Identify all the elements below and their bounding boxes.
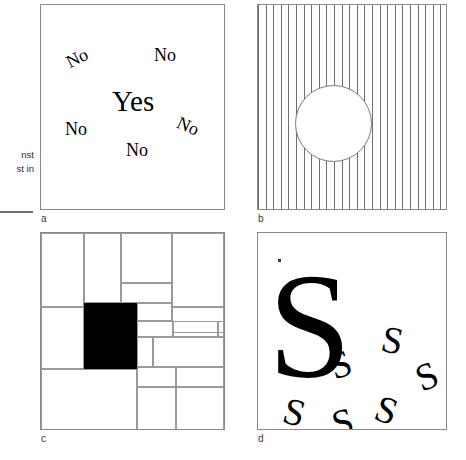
outline-rectangle [137, 321, 173, 337]
panel-c-rectangle-partition [40, 232, 225, 430]
outline-rectangle [176, 367, 224, 387]
distractor-word-no: No [126, 141, 148, 159]
outline-rectangle [121, 233, 172, 283]
panel-b-stripes-with-circle [257, 4, 447, 210]
small-letter-s: S [410, 354, 444, 397]
panel-d-letter-popout: SSSSSSS [257, 232, 447, 430]
occluding-circle [295, 85, 372, 162]
outline-rectangle [153, 337, 224, 367]
outline-rectangle [218, 321, 224, 337]
outline-rectangle [41, 369, 137, 430]
outline-rectangle [41, 307, 84, 369]
small-letter-s: S [328, 401, 358, 430]
outline-rectangle [41, 233, 84, 307]
outline-rectangle [137, 387, 176, 430]
outline-rectangle [121, 283, 172, 303]
distractor-word-no: No [65, 120, 87, 138]
panel-a-word-popout: YesNoNoNoNoNo [40, 4, 225, 210]
outline-rectangle [84, 233, 121, 303]
target-word-yes: Yes [112, 87, 154, 116]
outline-rectangle [137, 367, 176, 387]
outline-rectangle [173, 321, 218, 337]
distractor-word-no: No [63, 45, 91, 71]
margin-note-text: nst st in [0, 148, 34, 176]
outline-rectangle [176, 387, 224, 430]
filled-rectangle [84, 303, 137, 369]
distractor-word-no: No [174, 113, 201, 138]
small-letter-s: S [378, 319, 407, 361]
panel-label-b: b [258, 214, 264, 224]
distractor-word-no: No [154, 46, 176, 64]
small-letter-s: S [370, 389, 403, 430]
panel-label-a: a [41, 214, 47, 224]
outline-rectangle [172, 233, 224, 307]
margin-horizontal-rule [0, 211, 33, 213]
outline-rectangle [137, 337, 153, 367]
panel-label-d: d [258, 434, 264, 444]
outline-rectangle [137, 303, 172, 321]
panel-label-c: c [41, 434, 46, 444]
